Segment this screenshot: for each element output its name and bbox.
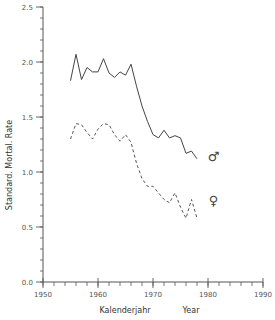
y-tick-label: 2.0 <box>22 59 33 67</box>
y-tick-label: 0.5 <box>22 224 33 232</box>
y-axis-title: Standard. Mortal. Rate <box>5 120 14 210</box>
series-line-male <box>71 54 198 159</box>
y-tick-label: 0.0 <box>22 279 33 287</box>
x-tick-label: 1980 <box>199 291 217 299</box>
y-tick-label: 1.0 <box>22 169 33 177</box>
series-symbols: ♂♀ <box>208 149 220 208</box>
y-axis: 0.00.51.01.52.02.5 <box>22 4 43 287</box>
series-layer <box>71 54 198 218</box>
x-tick-label: 1990 <box>254 291 272 299</box>
x-axis-title-en: Year <box>182 306 201 315</box>
male-symbol-icon: ♂ <box>208 149 220 164</box>
series-line-female <box>71 124 198 219</box>
x-axis-title: Kalenderjahr <box>100 306 152 315</box>
x-axis: 19501960197019801990 <box>34 278 272 299</box>
mortality-chart: 0.00.51.01.52.02.5 19501960197019801990 … <box>0 0 275 320</box>
x-tick-label: 1960 <box>89 291 107 299</box>
female-symbol-icon: ♀ <box>209 193 219 208</box>
y-tick-label: 2.5 <box>22 4 33 12</box>
x-tick-label: 1970 <box>144 291 162 299</box>
y-tick-label: 1.5 <box>22 114 33 122</box>
x-tick-label: 1950 <box>34 291 52 299</box>
